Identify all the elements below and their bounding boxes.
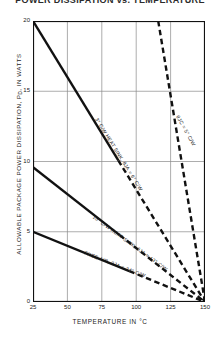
y-tick-label: 15 <box>14 87 30 93</box>
x-tick-label: 50 <box>55 304 79 310</box>
x-axis-label: TEMPERATURE IN °C <box>0 318 220 325</box>
plot-area: 3° C/W HEAT SINK, θJA = 6° C/WθJC = 5° C… <box>33 21 205 302</box>
series-label: θJC = 5° C/W <box>175 114 197 147</box>
y-tick-label: 10 <box>14 158 30 164</box>
x-tick-label: 75 <box>90 304 114 310</box>
plot-svg: 3° C/W HEAT SINK, θJA = 6° C/WθJC = 5° C… <box>33 21 205 302</box>
series-3: FREE AIR, θJA = 24° C/W <box>33 232 205 302</box>
x-tick-label: 125 <box>159 304 183 310</box>
y-tick-label: 20 <box>14 17 30 23</box>
x-tick-label: 150 <box>193 304 217 310</box>
x-tick-label: 100 <box>124 304 148 310</box>
series-2: 10° C/W HEAT SINK, θJA = 13° C/W <box>33 167 205 302</box>
series-line-solid <box>33 21 118 160</box>
chart-figure: POWER DISSIPATION vs. TEMPERATURE ALLOWA… <box>0 0 220 339</box>
series-label: FREE AIR, θJA = 24° C/W <box>84 250 147 279</box>
chart-title: POWER DISSIPATION vs. TEMPERATURE <box>0 0 220 5</box>
series-line-dashed <box>118 160 205 302</box>
y-tick-label: 5 <box>14 228 30 234</box>
y-axis-label: ALLOWABLE PACKAGE POWER DISSIPATION, PD,… <box>15 29 23 279</box>
x-tick-label: 25 <box>21 304 45 310</box>
y-axis-label-tail: , IN WATTS <box>15 53 22 90</box>
